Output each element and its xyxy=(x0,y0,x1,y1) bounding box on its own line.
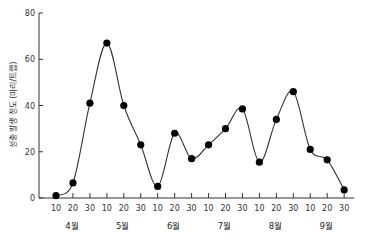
y-axis: 020406080 xyxy=(25,9,43,203)
data-point xyxy=(120,102,127,109)
x-tick-label: 30 xyxy=(85,204,95,213)
data-point xyxy=(86,100,93,107)
x-tick-label: 10 xyxy=(254,204,264,213)
y-axis-label: 성충 발생 정도 (마리/트랩) xyxy=(8,62,18,149)
month-label: 7월 xyxy=(218,221,231,231)
x-tick-label: 30 xyxy=(288,204,298,213)
data-point xyxy=(256,159,263,166)
data-point xyxy=(103,39,110,46)
data-point xyxy=(69,179,76,186)
x-tick-label: 20 xyxy=(119,204,129,213)
x-axis: 1020301020301020301020301020301020304월5월… xyxy=(39,193,354,231)
x-tick-label: 10 xyxy=(51,204,61,213)
y-tick-label: 80 xyxy=(25,9,35,18)
x-tick-label: 10 xyxy=(305,204,315,213)
y-tick-label: 40 xyxy=(25,102,35,111)
data-point xyxy=(205,141,212,148)
x-tick-label: 30 xyxy=(237,204,247,213)
data-line xyxy=(56,43,344,196)
data-point xyxy=(171,130,178,137)
data-point xyxy=(52,192,59,199)
data-markers xyxy=(52,39,347,199)
month-label: 6월 xyxy=(167,221,180,231)
x-tick-label: 20 xyxy=(220,204,230,213)
x-tick-label: 30 xyxy=(339,204,349,213)
data-point xyxy=(239,105,246,112)
y-tick-label: 20 xyxy=(25,148,35,157)
data-point xyxy=(273,116,280,123)
y-tick-label: 60 xyxy=(25,55,35,64)
x-tick-label: 20 xyxy=(322,204,332,213)
data-point xyxy=(222,125,229,132)
data-point xyxy=(154,183,161,190)
data-point xyxy=(290,88,297,95)
month-label: 9월 xyxy=(319,221,332,231)
x-tick-label: 30 xyxy=(187,204,197,213)
data-point xyxy=(137,141,144,148)
x-tick-label: 10 xyxy=(102,204,112,213)
month-label: 5월 xyxy=(116,221,129,231)
x-tick-label: 10 xyxy=(203,204,213,213)
x-tick-label: 20 xyxy=(170,204,180,213)
line-chart: 성충 발생 정도 (마리/트랩) 020406080 1020301020301… xyxy=(0,0,370,245)
month-label: 4월 xyxy=(65,221,78,231)
x-tick-label: 30 xyxy=(136,204,146,213)
data-point xyxy=(324,156,331,163)
data-point xyxy=(307,146,314,153)
data-point xyxy=(341,186,348,193)
x-tick-label: 20 xyxy=(271,204,281,213)
y-tick-label: 0 xyxy=(30,194,35,203)
x-tick-label: 10 xyxy=(153,204,163,213)
x-tick-label: 20 xyxy=(68,204,78,213)
data-point xyxy=(188,155,195,162)
month-label: 8월 xyxy=(269,221,282,231)
